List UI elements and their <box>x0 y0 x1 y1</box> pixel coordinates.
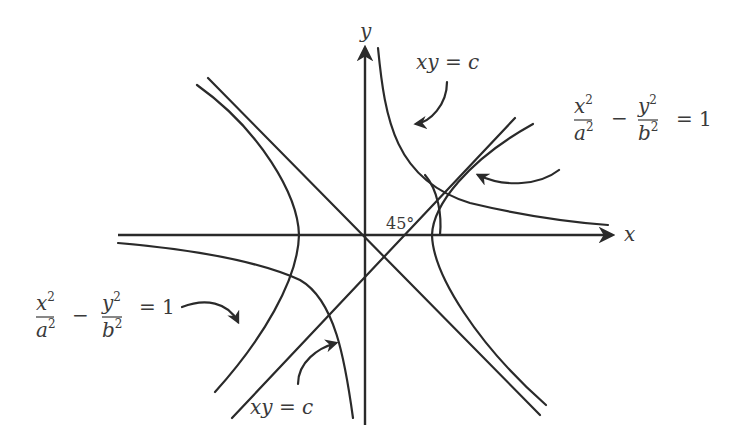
xy-c-top-arrow <box>416 82 447 124</box>
hyperbola-equation-right: x2 a2 − y2 b2 = 1 <box>574 93 712 145</box>
svg-text:−: − <box>611 106 628 130</box>
y-axis-label: y <box>359 19 372 43</box>
svg-text:x2: x2 <box>36 290 55 315</box>
svg-text:= 1: = 1 <box>676 107 712 131</box>
xy-hyperbola-lower-branch <box>118 243 353 418</box>
xy-c-label-top: xy = c <box>416 50 479 74</box>
hyperbola-diagram: 45° y x xy = c xy = c x2 a2 − y2 b2 = 1 … <box>0 0 743 448</box>
svg-text:−: − <box>72 303 89 327</box>
svg-text:a2: a2 <box>36 317 56 342</box>
x-axis-label: x <box>624 222 635 246</box>
hyperbola-equation-left: x2 a2 − y2 b2 = 1 <box>36 290 175 342</box>
xy-c-bottom-arrow <box>298 343 336 384</box>
hyperbola-left-branch <box>197 85 299 392</box>
asymptote-line-positive <box>208 78 540 415</box>
svg-text:b2: b2 <box>102 317 122 342</box>
angle-label: 45° <box>386 214 414 233</box>
svg-text:= 1: = 1 <box>139 295 175 319</box>
svg-text:b2: b2 <box>638 120 658 145</box>
svg-text:a2: a2 <box>574 120 594 145</box>
asymptote-line-negative <box>232 118 515 418</box>
svg-text:y2: y2 <box>101 290 121 315</box>
svg-text:y2: y2 <box>637 93 657 118</box>
svg-text:x2: x2 <box>574 93 593 118</box>
hyperbola-left-arrow <box>182 302 238 322</box>
xy-c-label-bottom: xy = c <box>250 395 313 419</box>
hyperbola-right-arrow <box>478 170 559 183</box>
